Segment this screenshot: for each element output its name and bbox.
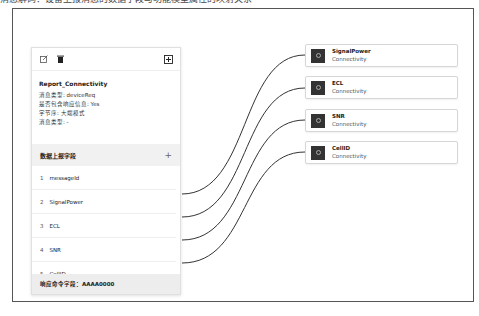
link-cellid	[182, 152, 305, 263]
target-signalpower[interactable]: SignalPowerConnectivity	[305, 44, 458, 67]
meta-byte-order: 字节序: 大端模式	[32, 109, 180, 118]
add-field-icon[interactable]: +	[164, 150, 172, 160]
target-ecl[interactable]: ECLConnectivity	[305, 76, 458, 99]
message-title: Report_Connectivity	[32, 71, 180, 91]
response-command-field: 响应命令字段：AAAA0000	[32, 274, 180, 294]
property-icon	[311, 114, 325, 128]
message-card: Report_Connectivity 消息类型: deviceReq 是否包含…	[31, 47, 181, 295]
meta-message-type: 消息类型: deviceReq	[32, 91, 180, 100]
property-icon	[311, 49, 325, 63]
meta-has-response: 是否包含响应信息: Yes	[32, 100, 180, 109]
card-toolbar	[32, 48, 180, 71]
field-row[interactable]: 3ECL	[32, 214, 176, 238]
link-signalpower	[182, 55, 305, 194]
report-fields-header: 数据上报字段 +	[32, 144, 180, 166]
target-snr[interactable]: SNRConnectivity	[305, 109, 458, 132]
field-list: 1messageId 2SignalPower 3ECL 4SNR 5CellI…	[32, 166, 180, 285]
edit-icon[interactable]	[39, 54, 49, 64]
delete-icon[interactable]	[55, 54, 65, 64]
property-icon	[311, 81, 325, 95]
field-row[interactable]: 1messageId	[32, 166, 176, 190]
link-snr	[182, 120, 305, 240]
property-icon	[311, 146, 325, 160]
field-row[interactable]: 4SNR	[32, 238, 176, 262]
field-row[interactable]: 2SignalPower	[32, 190, 176, 214]
add-box-icon[interactable]	[163, 54, 173, 64]
target-cellid[interactable]: CellIDConnectivity	[305, 141, 458, 164]
meta-message-type-2: 消息类型: -	[32, 118, 180, 127]
link-ecl	[182, 88, 305, 217]
